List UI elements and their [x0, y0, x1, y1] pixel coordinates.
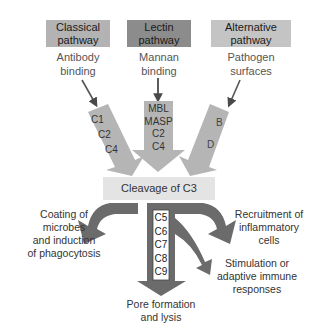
outcome-right-top-line-3: cells — [228, 234, 310, 247]
classical-component-c1: C1 — [91, 113, 104, 126]
lectin-component-c2: C2 — [144, 128, 173, 141]
classical-component-c2: C2 — [98, 128, 111, 141]
classical-pathway-box: Classical pathway — [46, 20, 110, 47]
alternative-trigger: Pathogen surfaces — [211, 50, 291, 78]
alternative-component-d: D — [207, 138, 214, 151]
adaptive-immunity-arrow — [175, 218, 212, 275]
classical-component-c4: C4 — [105, 143, 118, 156]
lectin-component-masp: MASP — [144, 116, 173, 129]
outcome-bottom-line-2: and lysis — [116, 311, 206, 324]
terminal-components-list: C5 C6 C7 C8 C9 — [153, 211, 169, 279]
outcome-right-top-line-1: Recruitment of — [228, 208, 310, 221]
alternative-title-1: Alternative — [211, 21, 291, 34]
cleavage-c3-label: Cleavage of C3 — [103, 177, 215, 200]
outcome-inflammation: Recruitment of inflammatory cells — [228, 208, 310, 247]
alternative-trigger-2: surfaces — [211, 64, 291, 78]
outcome-lysis: Pore formation and lysis — [116, 298, 206, 324]
outcome-left-line-3: and induction — [14, 234, 114, 247]
component-c8: C8 — [153, 252, 169, 266]
outcome-right-bottom-line-1: Stimulation or — [212, 257, 302, 270]
alternative-component-b: B — [216, 116, 223, 129]
outcome-left-line-2: microbes — [14, 221, 114, 234]
outcome-bottom-line-1: Pore formation — [116, 298, 206, 311]
lectin-pathway-box: Lectin pathway — [127, 20, 191, 47]
alternative-trigger-1: Pathogen — [211, 50, 291, 64]
alternative-input-arrow — [179, 104, 229, 176]
outcome-right-top-line-2: inflammatory — [228, 221, 310, 234]
lectin-trigger: Mannan binding — [127, 50, 191, 78]
outcome-left-line-4: of phagocytosis — [14, 247, 114, 260]
alternative-title-2: pathway — [211, 34, 291, 47]
outcome-adaptive-immunity: Stimulation or adaptive immune responses — [212, 257, 302, 296]
component-c9: C9 — [153, 265, 169, 279]
classical-thin-arrow — [82, 80, 95, 103]
lectin-title-1: Lectin — [127, 21, 191, 34]
alternative-pathway-box: Alternative pathway — [211, 20, 291, 47]
classical-trigger-2: binding — [46, 64, 110, 78]
classical-trigger: Antibody binding — [46, 50, 110, 78]
outcome-right-bottom-line-3: responses — [212, 283, 302, 296]
lectin-title-2: pathway — [127, 34, 191, 47]
component-c5: C5 — [153, 211, 169, 225]
lectin-trigger-1: Mannan — [127, 50, 191, 64]
lectin-trigger-2: binding — [127, 64, 191, 78]
component-c7: C7 — [153, 238, 169, 252]
classical-title-1: Classical — [46, 21, 110, 34]
lectin-components: MBL MASP C2 C4 — [144, 103, 173, 153]
component-c6: C6 — [153, 225, 169, 239]
alternative-thin-arrow — [230, 80, 240, 103]
classical-trigger-1: Antibody — [46, 50, 110, 64]
outcome-opsonization: Coating of microbes and induction of pha… — [14, 208, 114, 260]
lectin-component-mbl: MBL — [144, 103, 173, 116]
outcome-right-bottom-line-2: adaptive immune — [212, 270, 302, 283]
lectin-component-c4: C4 — [144, 141, 173, 154]
outcome-left-line-1: Coating of — [14, 208, 114, 221]
classical-title-2: pathway — [46, 34, 110, 47]
